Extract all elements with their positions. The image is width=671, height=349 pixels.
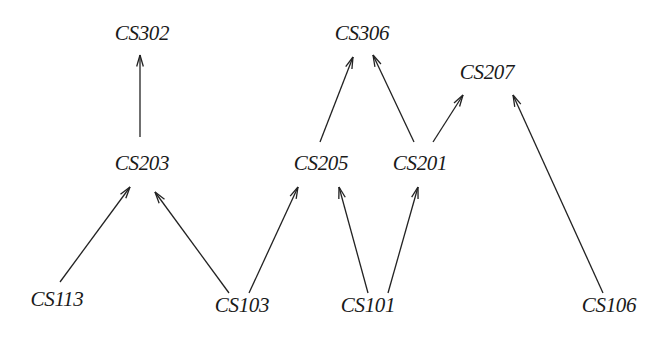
node-cs113: CS113 — [31, 289, 84, 310]
edge-cs101-to-cs201 — [388, 187, 418, 293]
edge-cs101-to-cs205 — [339, 187, 368, 293]
edge-cs203-to-cs302 — [137, 55, 144, 137]
edge-cs201-to-cs207 — [433, 95, 463, 142]
node-cs306: CS306 — [335, 23, 390, 44]
node-cs201: CS201 — [393, 153, 448, 174]
edge-layer — [0, 0, 671, 349]
edge-cs103-to-cs203 — [155, 192, 229, 293]
node-cs103: CS103 — [215, 295, 270, 316]
node-cs205: CS205 — [294, 153, 349, 174]
node-cs302: CS302 — [115, 23, 170, 44]
node-cs203: CS203 — [115, 153, 170, 174]
prerequisite-diagram: CS302CS306CS207CS203CS205CS201CS113CS103… — [0, 0, 671, 349]
node-cs106: CS106 — [582, 295, 637, 316]
node-cs207: CS207 — [460, 62, 515, 83]
edge-cs113-to-cs203 — [60, 187, 130, 282]
edge-cs201-to-cs306 — [373, 55, 414, 142]
edge-cs103-to-cs205 — [249, 187, 298, 293]
node-cs101: CS101 — [341, 295, 396, 316]
edge-cs205-to-cs306 — [320, 57, 353, 142]
edge-cs106-to-cs207 — [513, 95, 603, 293]
